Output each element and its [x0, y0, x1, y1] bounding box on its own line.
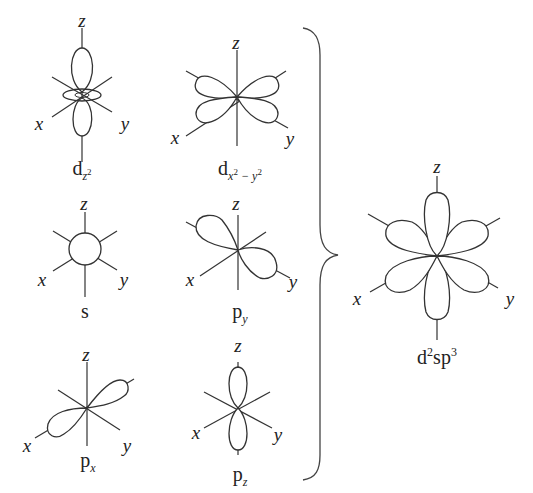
axis-label-x: x [38, 270, 46, 289]
axis-label-y: y [286, 129, 294, 148]
diagram-canvas [0, 0, 533, 493]
axis-label-z: z [80, 194, 87, 213]
orbital-s [53, 212, 117, 297]
orbital-dz2 [52, 28, 112, 162]
orbital-hybridization-diagram: z x y z x y z x y z x y z x y z x y z x … [0, 0, 533, 493]
orbital-d2sp3 [368, 176, 500, 340]
axis-label-z: z [82, 345, 89, 364]
orbital-label-s: s [81, 301, 89, 321]
axis-label-y: y [274, 425, 282, 444]
axis-label-z: z [78, 11, 85, 30]
orbital-label-d2sp3: d2sp3 [417, 346, 457, 367]
orbital-label-px: px [80, 450, 95, 474]
axis-label-z: z [433, 157, 440, 176]
axis-label-x: x [186, 270, 194, 289]
orbital-pz [204, 362, 272, 455]
axis-label-y: y [506, 289, 514, 308]
axis-label-x: x [35, 114, 43, 133]
axis-label-y: y [123, 436, 131, 455]
axis-label-y: y [121, 114, 129, 133]
axis-label-z: z [232, 194, 239, 213]
axis-label-y: y [120, 270, 128, 289]
axis-label-x: x [23, 436, 31, 455]
orbital-label-pz: pz [233, 464, 248, 488]
axis-label-y: y [289, 272, 297, 291]
orbital-label-py: py [232, 301, 247, 325]
orbital-py [186, 215, 290, 290]
axis-label-z: z [234, 336, 241, 355]
orbital-px [35, 362, 134, 446]
orbital-dx2-y2 [186, 50, 288, 146]
axis-label-x: x [192, 423, 200, 442]
orbital-label-dx2-y2: dx2 − y2 [218, 158, 262, 182]
axis-label-x: x [353, 289, 361, 308]
axis-label-x: x [171, 128, 179, 147]
grouping-brace [303, 28, 338, 480]
orbital-label-dz2: dz2 [72, 158, 91, 182]
axis-label-z: z [232, 33, 239, 52]
